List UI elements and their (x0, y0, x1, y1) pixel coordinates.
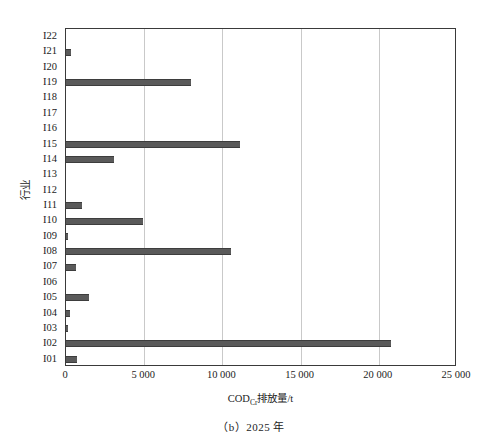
bar-I07 (66, 264, 76, 271)
bar-I03 (66, 325, 68, 332)
y-tick-I05: I05 (43, 289, 57, 304)
y-tick-I02: I02 (43, 335, 57, 350)
y-tick-I04: I04 (43, 305, 57, 320)
bar-row (66, 259, 457, 274)
bar-row (66, 106, 457, 121)
y-tick-I08: I08 (43, 243, 57, 258)
y-tick-I22: I22 (43, 28, 57, 43)
bar-row (66, 152, 457, 167)
bar-row (66, 321, 457, 336)
bar-row (66, 352, 457, 367)
figure-container: 行业 I01I02I03I04I05I06I07I08I09I10I11I12I… (0, 0, 502, 447)
bar-row (66, 290, 457, 305)
bar-series (66, 29, 455, 365)
x-axis-tick-labels: 05 00010 00015 00020 00025 000 (65, 369, 456, 385)
bar-row (66, 75, 457, 90)
bar-I09 (66, 233, 68, 240)
bar-row (66, 213, 457, 228)
x-tick-5000: 5 000 (131, 369, 155, 380)
bar-I08 (66, 248, 231, 255)
bar-I10 (66, 218, 143, 225)
x-tick-20000: 20 000 (363, 369, 392, 380)
bar-row (66, 60, 457, 75)
bar-row (66, 198, 457, 213)
y-axis-tick-labels: I01I02I03I04I05I06I07I08I09I10I11I12I13I… (20, 28, 61, 366)
x-tick-25000: 25 000 (442, 369, 471, 380)
y-tick-I17: I17 (43, 105, 57, 120)
bar-row (66, 336, 457, 351)
bar-I05 (66, 294, 89, 301)
figure-caption: （b）2025 年 (0, 418, 502, 434)
bar-row (66, 137, 457, 152)
y-tick-I07: I07 (43, 258, 57, 273)
bar-I14 (66, 156, 114, 163)
bar-row (66, 183, 457, 198)
y-tick-I16: I16 (43, 120, 57, 135)
y-tick-I20: I20 (43, 59, 57, 74)
y-tick-I13: I13 (43, 166, 57, 181)
y-tick-I09: I09 (43, 228, 57, 243)
bar-row (66, 44, 457, 59)
y-tick-I21: I21 (43, 43, 57, 58)
bar-I02 (66, 340, 391, 347)
bar-row (66, 167, 457, 182)
y-tick-I12: I12 (43, 182, 57, 197)
y-tick-I19: I19 (43, 74, 57, 89)
y-tick-I01: I01 (43, 351, 57, 366)
bar-I21 (66, 49, 71, 56)
y-tick-I10: I10 (43, 212, 57, 227)
bar-row (66, 275, 457, 290)
bar-I19 (66, 79, 191, 86)
bar-I11 (66, 202, 82, 209)
x-tick-15000: 15 000 (285, 369, 314, 380)
bar-row (66, 90, 457, 105)
y-tick-I14: I14 (43, 151, 57, 166)
plot-area (65, 28, 456, 366)
bar-I01 (66, 356, 77, 363)
y-tick-I06: I06 (43, 274, 57, 289)
bar-row (66, 29, 457, 44)
y-tick-I03: I03 (43, 320, 57, 335)
bar-I04 (66, 310, 70, 317)
x-axis-title-unit: 排放量/t (257, 393, 293, 404)
y-tick-I11: I11 (43, 197, 57, 212)
bar-row (66, 229, 457, 244)
x-axis-title-main: COD (228, 393, 250, 404)
y-tick-I15: I15 (43, 136, 57, 151)
x-axis-title: CODCr排放量/t (65, 390, 456, 407)
bar-I15 (66, 141, 240, 148)
x-tick-0: 0 (62, 369, 67, 380)
bar-row (66, 244, 457, 259)
bar-row (66, 121, 457, 136)
x-tick-10000: 10 000 (207, 369, 236, 380)
bar-row (66, 306, 457, 321)
y-tick-I18: I18 (43, 89, 57, 104)
